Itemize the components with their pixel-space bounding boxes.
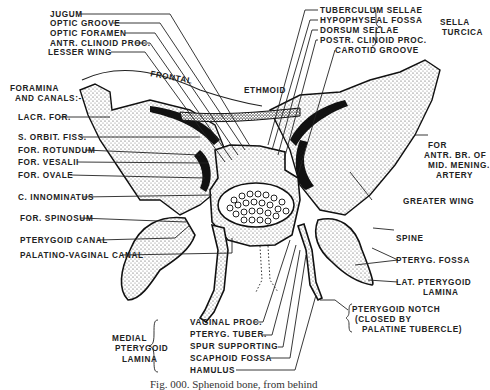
right-lateral-pterygoid-lamina xyxy=(316,219,373,285)
label-and-canals: AND CANALS:- xyxy=(15,94,82,103)
label-pterygoid-notch: PTERYGOID NOTCH xyxy=(352,305,440,314)
label-pteryg-tuber: PTERYG. TUBER. xyxy=(190,330,267,339)
label-foramina: FORAMINA xyxy=(10,84,59,93)
label-lacr-for: LACR. FOR. xyxy=(18,113,71,122)
label-medial-pterygoid: PTERYGOID xyxy=(115,344,168,353)
label-for-spinosum: FOR. SPINOSUM xyxy=(20,214,93,223)
left-medial-pterygoid-lamina xyxy=(200,225,228,322)
label-spine: SPINE xyxy=(396,234,424,243)
label-vaginal-proc: VAGINAL PROC. xyxy=(190,318,262,327)
label-for: FOR xyxy=(428,141,447,150)
label-medial: MEDIAL xyxy=(112,334,147,343)
label-hypophyseal-fossa: HYPOPHYSEAL FOSSA xyxy=(320,16,422,25)
label-closed-by: (CLOSED BY xyxy=(355,315,412,324)
label-lat-lamina: LAMINA xyxy=(423,288,458,297)
label-for-vesalii: FOR. VESALII xyxy=(18,158,79,167)
label-hamulus: HAMULUS xyxy=(190,366,235,375)
label-antr-clinoid-proc: ANTR. CLINOID PROC. xyxy=(50,39,151,48)
figure-caption: Fig. 000. Sphenoid bone, from behind xyxy=(150,378,317,390)
label-pterygoid-canal: PTERYGOID CANAL xyxy=(20,236,108,245)
label-antr-br-of: ANTR. BR. OF xyxy=(424,151,486,160)
label-jugum: JUGUM xyxy=(50,10,83,19)
label-mid-mening: MID. MENING. xyxy=(428,161,490,170)
label-pteryg-fossa: PTERYG. FOSSA xyxy=(396,256,470,265)
label-lesser-wing: LESSER WING xyxy=(48,48,112,57)
label-postr-clinoid-proc: POSTR. CLINOID PROC. xyxy=(320,36,427,45)
label-palatine-tubercle: PALATINE TUBERCLE) xyxy=(362,325,462,334)
label-ethmoid: ETHMOID xyxy=(244,86,286,95)
label-for-ovale: FOR. OVALE xyxy=(18,171,73,180)
label-lat-pterygoid: LAT. PTERYGOID xyxy=(396,278,471,287)
label-medial-lamina: LAMINA xyxy=(122,355,157,364)
label-optic-foramen: OPTIC FORAMEN xyxy=(50,29,126,38)
label-turcica: TURCICA xyxy=(442,28,483,37)
label-scaphoid-fossa: SCAPHOID FOSSA xyxy=(190,354,272,363)
label-optic-groove: OPTIC GROOVE xyxy=(50,19,120,28)
label-s-orbit-fiss: S. ORBIT. FISS. xyxy=(18,133,87,142)
label-spur-supporting: SPUR SUPPORTING xyxy=(190,342,278,351)
label-dorsum-sellae: DORSUM SELLAE xyxy=(320,26,399,35)
label-sella: SELLA xyxy=(440,18,470,27)
label-tuberculum-sellae: TUBERCULUM SELLAE xyxy=(320,6,423,15)
label-for-rotundum: FOR. ROTUNDUM xyxy=(18,146,95,155)
label-artery: ARTERY xyxy=(436,171,473,180)
label-c-innominatus: C. INNOMINATUS xyxy=(18,193,94,202)
label-carotid-groove: CAROTID GROOVE xyxy=(335,46,419,55)
label-greater-wing: GREATER WING xyxy=(403,197,474,206)
label-palatino-vaginal-canal: PALATINO-VAGINAL CANAL xyxy=(20,251,144,260)
